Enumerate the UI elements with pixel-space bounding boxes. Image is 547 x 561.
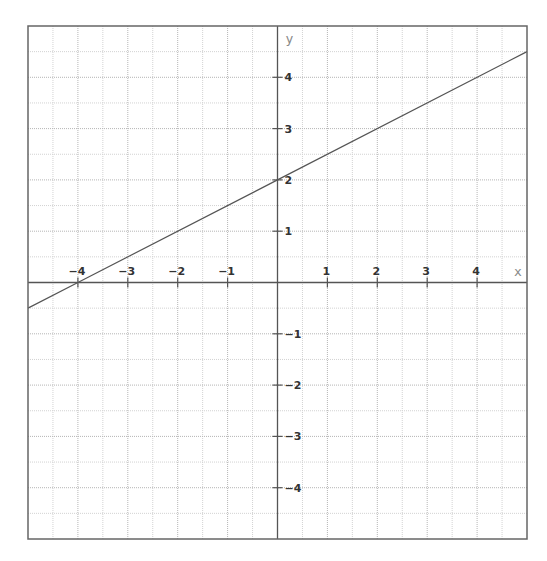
y-tick-label: −3 [285,430,302,443]
y-tick-label: 2 [285,174,293,187]
x-tick-label: 3 [422,265,430,278]
y-tick-label: 1 [285,225,293,238]
x-tick-label: 4 [472,265,480,278]
x-tick-label: 2 [372,265,380,278]
x-axis-label: x [514,264,522,279]
y-tick-label: −4 [285,482,302,495]
x-tick-label: 1 [323,265,331,278]
y-tick-label: 4 [285,71,293,84]
y-tick-label: 3 [285,123,293,136]
coordinate-plane: −4−3−2−11234 −4−3−2−11234 x y [0,0,547,561]
x-tick-labels: −4−3−2−11234 [68,265,480,278]
x-tick-label: −4 [68,265,85,278]
x-tick-label: −2 [168,265,185,278]
x-tick-label: −3 [118,265,135,278]
y-tick-label: −2 [285,379,302,392]
y-axis-label: y [286,31,294,46]
x-tick-label: −1 [218,265,235,278]
y-tick-label: −1 [285,328,302,341]
